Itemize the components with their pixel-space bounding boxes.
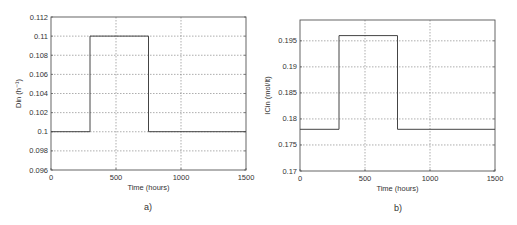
chart-a: 0.0960.0980.10.1020.1040.1060.1080.110.1… [14,13,254,213]
figure: 0.0960.0980.10.1020.1040.1060.1080.110.1… [0,0,517,225]
chart-b-caption: b) [394,203,402,213]
chart-b-x-tick-label: 0 [298,174,302,183]
chart-b-y-tick-label: 0.18 [282,114,297,123]
chart-b-series [300,36,495,130]
chart-b-y-tick-label: 0.195 [278,36,297,45]
chart-b-x-tick-label: 1500 [487,174,504,183]
chart-a-y-tick-label: 0.108 [29,51,48,60]
chart-b-y-ticks: 0.170.1750.180.1850.190.195 [278,36,495,175]
chart-b-x-tick-label: 1000 [422,174,439,183]
chart-b-y-tick-label: 0.185 [278,88,297,97]
chart-b-y-axis-label: ICin (mol/lt) [263,76,272,115]
chart-a-x-tick-label: 1000 [173,173,190,182]
chart-a-y-tick-label: 0.112 [30,13,48,22]
chart-a-y-tick-label: 0.104 [29,89,48,98]
chart-b-x-axis-label: Time (hours) [376,184,419,193]
chart-a-x-tick-label: 500 [110,173,123,182]
chart-b-series-line [300,36,495,130]
chart-a-y-tick-label: 0.106 [29,70,48,79]
chart-a-y-tick-label: 0.1 [38,127,48,136]
chart-a-caption: a) [144,202,152,212]
chart-a-y-tick-label: 0.098 [29,146,48,155]
chart-a-series [51,36,246,132]
chart-b-x-tick-label: 500 [359,174,372,183]
chart-b-y-tick-label: 0.17 [282,167,297,176]
chart-a-y-tick-label: 0.096 [29,166,48,175]
chart-a-y-axis-label: Din (h⁻¹) [14,79,23,109]
chart-a-x-tick-label: 1500 [238,173,255,182]
chart-a-series-line [51,36,246,132]
chart-a-y-tick-label: 0.11 [34,32,48,41]
chart-a-x-tick-label: 0 [49,173,53,182]
chart-b-y-tick-label: 0.19 [282,62,297,71]
chart-b: 0.170.1750.180.1850.190.195 050010001500… [263,20,503,213]
chart-a-y-tick-label: 0.102 [29,108,48,117]
chart-b-y-tick-label: 0.175 [278,140,297,149]
chart-a-x-axis-label: Time (hours) [127,183,170,192]
